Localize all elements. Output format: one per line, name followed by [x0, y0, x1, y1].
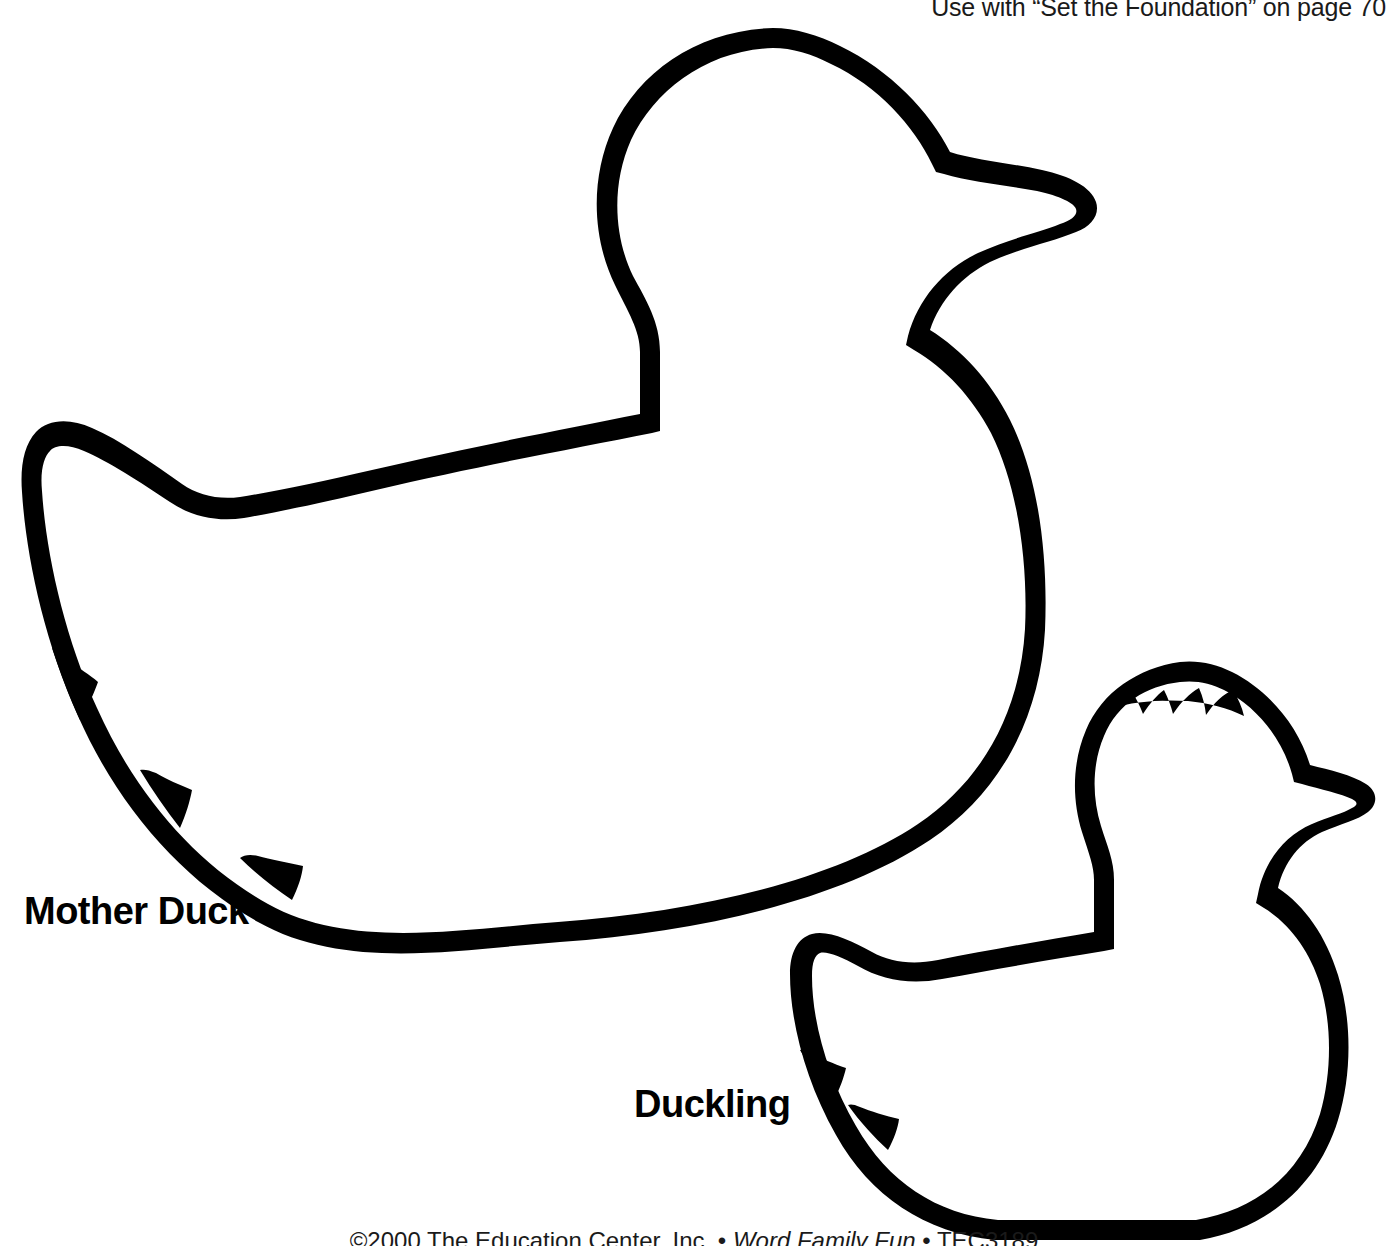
footer-publication: Word Family Fun [733, 1227, 916, 1246]
duck-pattern-artwork [0, 0, 1388, 1246]
footer-product-code: • TEC3189 [916, 1227, 1039, 1246]
duckling-outline [790, 661, 1375, 1240]
duckling-label: Duckling [634, 1083, 790, 1126]
worksheet-page: Use with “Set the Foundation” on page 70… [0, 0, 1388, 1246]
footer-copyright: ©2000 The Education Center, Inc. • [350, 1227, 733, 1246]
duckling-head-tuft [1112, 688, 1244, 716]
mother-duck-label: Mother Duck [24, 890, 249, 933]
mother-duck-shape[interactable] [22, 28, 1098, 953]
footer-credit: ©2000 The Education Center, Inc. • Word … [0, 1227, 1388, 1246]
duckling-shape[interactable] [790, 661, 1375, 1240]
